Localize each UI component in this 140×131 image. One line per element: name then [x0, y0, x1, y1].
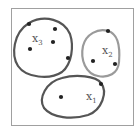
data-point: [99, 82, 103, 86]
data-point: [28, 47, 32, 51]
data-point: [51, 40, 55, 44]
data-point: [113, 62, 117, 66]
data-point: [106, 29, 110, 33]
cluster-diagram: x3 x2 x1: [0, 0, 140, 131]
cluster-x2-label: x2: [102, 44, 113, 59]
cluster-x3-boundary: [14, 19, 72, 77]
cluster-x3: x3: [14, 19, 72, 77]
data-point: [27, 22, 31, 26]
data-point: [66, 56, 70, 60]
cluster-x2-boundary: [82, 30, 119, 76]
data-point: [53, 27, 57, 31]
cluster-x2: x2: [82, 29, 119, 77]
cluster-x1-label: x1: [86, 90, 97, 105]
data-point: [59, 95, 63, 99]
cluster-x1: x1: [42, 76, 104, 118]
data-point: [91, 59, 95, 63]
diagram-frame: [12, 9, 134, 126]
cluster-x3-label: x3: [32, 32, 43, 47]
